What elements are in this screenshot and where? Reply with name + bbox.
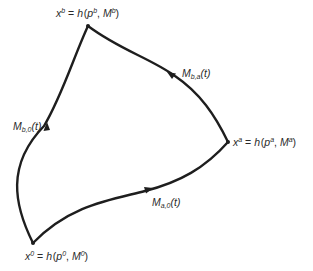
label-m: M <box>72 250 81 262</box>
label-m: M <box>280 136 289 148</box>
label-path-ba: Mb,a(t) <box>182 68 210 80</box>
label-vertex-b: xb = h (pb, Mb) <box>56 7 119 19</box>
label-path-name: M <box>13 120 22 132</box>
vertex-a <box>226 140 230 144</box>
label-m: M <box>103 7 112 19</box>
label-path-name: M <box>182 67 191 79</box>
vertex-0 <box>31 241 35 245</box>
vertex-b <box>86 24 90 28</box>
label-eq: = <box>37 250 43 262</box>
label-path-arg: (t) <box>200 67 210 79</box>
label-sup: b <box>61 7 65 14</box>
curve-m-a0 <box>33 142 228 243</box>
label-path-name: M <box>152 196 161 208</box>
label-path-a0: Ma,0(t) <box>152 197 180 209</box>
label-sup: a <box>238 136 242 143</box>
label-path-arg: (t) <box>170 196 180 208</box>
label-sup: 0 <box>30 250 34 257</box>
curve-m-ba <box>88 26 228 142</box>
label-path-b0: Mb,0(t) <box>13 121 41 133</box>
label-eq: = <box>245 136 251 148</box>
label-vertex-a: xa = h (pa, Ma) <box>233 136 296 148</box>
label-vertex-0: x0 = h (p0, M0) <box>25 250 88 262</box>
label-path-arg: (t) <box>31 120 41 132</box>
label-eq: = <box>68 7 74 19</box>
